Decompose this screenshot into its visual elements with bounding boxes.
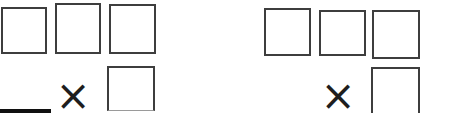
answer-box	[55, 3, 101, 54]
multiplication-sign: ×	[323, 80, 353, 112]
worksheet-fragment: × ×	[0, 0, 466, 113]
answer-box	[371, 67, 420, 113]
answer-box	[107, 66, 155, 111]
answer-box	[319, 10, 366, 56]
answer-box	[264, 8, 311, 56]
multiplication-sign: ×	[58, 80, 88, 112]
answer-box	[109, 4, 156, 54]
answer-box	[372, 10, 420, 59]
scan-edge-mark	[0, 109, 51, 113]
answer-box	[1, 7, 47, 54]
